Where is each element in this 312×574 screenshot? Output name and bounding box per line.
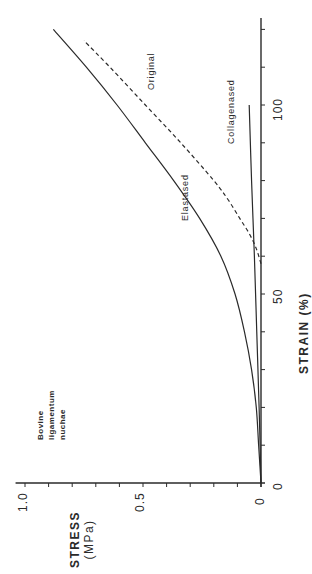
stress-tick-0-5: 0.5 <box>133 492 147 512</box>
curve-collagenased <box>249 105 261 483</box>
stress-strain-chart <box>0 0 312 574</box>
stress-unit-text: (MPa) <box>82 511 96 568</box>
curve-elastased <box>84 41 261 264</box>
stress-tick-0: 0 <box>253 497 267 505</box>
annotation-line-3: nuchae <box>57 390 68 440</box>
strain-axis-title: STRAIN (%) <box>297 292 311 374</box>
annotation-line-2: ligamentum <box>46 390 57 440</box>
stress-axis-title: STRESS (MPa) <box>68 511 96 568</box>
series-label-original: Original <box>146 53 156 90</box>
strain-tick-50: 50 <box>271 289 285 304</box>
stress-tick-1-0: 1.0 <box>16 492 30 512</box>
annotation-note: Bovine ligamentum nuchae <box>35 390 68 440</box>
series-label-elastased: Elastased <box>180 174 190 221</box>
annotation-line-1: Bovine <box>35 390 46 440</box>
strain-tick-100: 100 <box>271 98 285 121</box>
series-label-collagenased: Collagenased <box>226 79 236 144</box>
stress-title-text: STRESS <box>68 511 82 568</box>
strain-tick-0: 0 <box>271 482 285 490</box>
